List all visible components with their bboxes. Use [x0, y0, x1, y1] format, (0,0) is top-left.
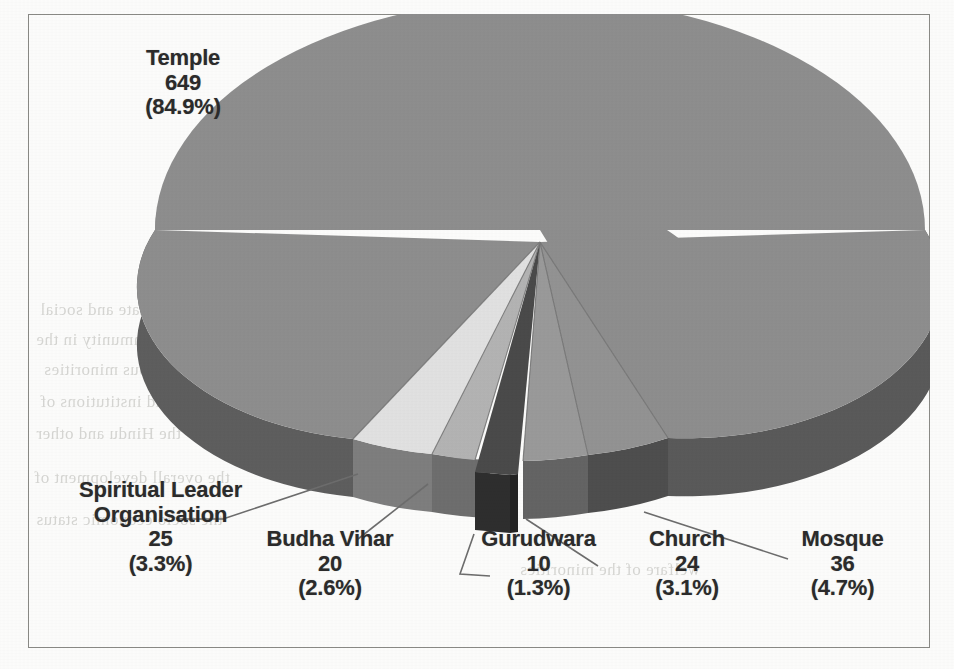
label-gurudwara-percent: (1.3%)	[466, 576, 611, 601]
label-mosque-percent: (4.7%)	[780, 576, 905, 601]
slice-side-gurudwara	[475, 472, 510, 533]
label-spiritual-leader-organisation-value: 25	[48, 527, 273, 552]
label-budha-vihar-percent: (2.6%)	[250, 576, 410, 601]
scanned-chart-page: a different way of life. The and the Mus…	[0, 0, 954, 669]
label-temple-value: 649	[88, 71, 278, 96]
slice-side-gurudwara-right	[510, 474, 518, 533]
label-budha-vihar: Budha Vihar 20 (2.6%)	[250, 527, 410, 601]
label-spiritual-leader-organisation-percent: (3.3%)	[48, 552, 273, 577]
label-temple: Temple 649 (84.9%)	[88, 46, 278, 120]
label-church-name: Church	[631, 527, 743, 552]
pie-chart: Temple 649 (84.9%) Spiritual Leader Orga…	[28, 14, 930, 648]
label-gurudwara-value: 10	[466, 552, 611, 577]
label-church-percent: (3.1%)	[631, 576, 743, 601]
label-mosque: Mosque 36 (4.7%)	[780, 527, 905, 601]
label-spiritual-leader-organisation-name-line1: Spiritual Leader	[48, 478, 273, 503]
label-temple-percent: (84.9%)	[88, 95, 278, 120]
label-church-value: 24	[631, 552, 743, 577]
label-church: Church 24 (3.1%)	[631, 527, 743, 601]
label-temple-name: Temple	[88, 46, 278, 71]
label-spiritual-leader-organisation: Spiritual Leader Organisation 25 (3.3%)	[48, 478, 273, 577]
label-mosque-name: Mosque	[780, 527, 905, 552]
label-gurudwara-name: Gurudwara	[466, 527, 611, 552]
label-budha-vihar-name: Budha Vihar	[250, 527, 410, 552]
slice-side-church	[523, 455, 588, 519]
label-spiritual-leader-organisation-name-line2: Organisation	[48, 503, 273, 528]
label-gurudwara: Gurudwara 10 (1.3%)	[466, 527, 611, 601]
label-mosque-value: 36	[780, 552, 905, 577]
label-budha-vihar-value: 20	[250, 552, 410, 577]
